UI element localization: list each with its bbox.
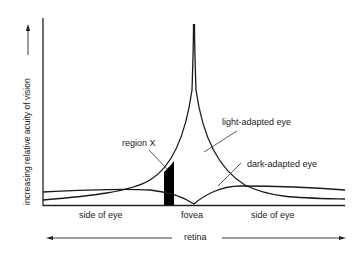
label-side-of-eye-right: side of eye bbox=[251, 210, 295, 220]
label-retina: retina bbox=[184, 232, 207, 242]
region-x-leader bbox=[149, 150, 168, 170]
acuity-diagram: increasing relative acuity of vision sid… bbox=[0, 0, 362, 259]
label-side-of-eye-left: side of eye bbox=[79, 210, 123, 220]
label-light-adapted-eye: light-adapted eye bbox=[222, 117, 291, 127]
light-adapted-curve bbox=[43, 24, 345, 200]
dark-curve-leader bbox=[218, 163, 241, 186]
retina-arrow-right-icon bbox=[339, 236, 346, 240]
retina-arrow-left-icon bbox=[46, 236, 53, 240]
label-dark-adapted-eye: dark-adapted eye bbox=[247, 159, 317, 169]
label-fovea: fovea bbox=[181, 210, 203, 220]
label-region-x: region X bbox=[122, 138, 156, 148]
y-axis-label: increasing relative acuity of vision bbox=[22, 78, 32, 205]
diagram-canvas bbox=[0, 0, 362, 259]
y-arrow-head-icon bbox=[26, 24, 30, 31]
